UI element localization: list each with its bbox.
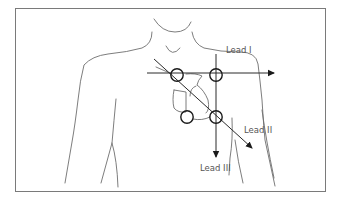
ecg-lead-diagram: Lead I Lead II Lead III [0,0,339,205]
left-torso-side [101,99,116,183]
chin-line [154,19,191,32]
lead-1-label: Lead I [226,45,252,55]
lead-2-axis [154,59,252,148]
heart-right-contour [186,74,209,113]
left-shoulder-arm-outer [65,32,152,183]
figure-frame [16,9,326,192]
lead-3-label: Lead III [200,163,231,173]
heart-bottom [193,117,210,120]
sternal-notch [166,46,180,53]
heart-left-atrium [173,90,186,112]
lead-2-label: Lead II [244,125,272,135]
right-inner-arm [235,140,243,183]
left-inner-arm [112,143,118,187]
right-arm-inner-edge [262,110,274,178]
electrode-right-leg [181,111,193,123]
